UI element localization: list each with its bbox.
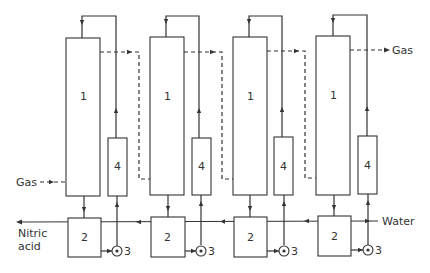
pump-label: 3 [291, 245, 298, 258]
absorption-column [66, 38, 100, 196]
stage-1 [66, 16, 151, 257]
stage-4 [316, 15, 390, 256]
tank-label: 2 [331, 230, 338, 243]
cooler-label: 4 [114, 160, 121, 173]
pump-label: 3 [375, 244, 382, 257]
cooler-label: 4 [364, 159, 371, 172]
tank-label: 2 [247, 231, 254, 244]
nitric-acid-label-line1: Nitric [18, 227, 47, 240]
tank-label: 2 [164, 231, 171, 244]
gas-inlet-line [40, 180, 66, 184]
column-label: 1 [247, 90, 254, 103]
absorption-column [316, 36, 350, 195]
cooler-label: 4 [198, 160, 205, 173]
water-inlet-label: Water [382, 215, 415, 228]
gas-outlet-label: Gas [392, 44, 413, 57]
pump-label: 3 [124, 245, 131, 258]
column-label: 1 [330, 89, 337, 102]
nitric-acid-label-line2: acid [18, 240, 41, 253]
gas-inlet-label: Gas [16, 176, 37, 189]
column-label: 1 [80, 90, 87, 103]
column-label: 1 [164, 90, 171, 103]
absorption-column [233, 37, 267, 195]
tank-label: 2 [81, 231, 88, 244]
pump-label: 3 [208, 245, 215, 258]
absorption-column [150, 37, 184, 195]
nitric-acid-process-diagram: 1 4 2 3 1 4 2 3 1 4 2 3 1 4 2 3 Gas Gas … [0, 0, 430, 273]
cooler-label: 4 [280, 160, 287, 173]
